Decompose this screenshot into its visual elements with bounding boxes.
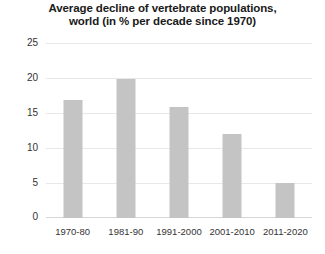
y-axis-tick-10: 10: [0, 143, 38, 153]
bar-2011-2020[interactable]: [276, 183, 295, 218]
bars-layer: [46, 43, 312, 218]
chart-title-line-1: Average decline of vertebrate population…: [0, 2, 325, 15]
bar-slot-1991-2000: [152, 43, 205, 218]
x-axis-tick-1970-80: 1970-80: [46, 226, 99, 237]
y-axis-tick-5: 5: [0, 178, 38, 188]
x-axis-tick-2011-2020: 2011-2020: [259, 226, 312, 237]
bar-1981-90[interactable]: [116, 79, 135, 218]
chart-title: Average decline of vertebrate population…: [0, 2, 325, 28]
bar-slot-1970-80: [46, 43, 99, 218]
x-axis-tick-1991-2000: 1991-2000: [152, 226, 205, 237]
y-axis-tick-0: 0: [0, 212, 38, 222]
bar-slot-2011-2020: [259, 43, 312, 218]
bar-2001-2010[interactable]: [223, 134, 242, 218]
y-axis-tick-15: 15: [0, 108, 38, 118]
bar-1970-80[interactable]: [63, 100, 82, 218]
x-axis-tick-2001-2010: 2001-2010: [206, 226, 259, 237]
y-axis-tick-20: 20: [0, 73, 38, 83]
bar-slot-2001-2010: [206, 43, 259, 218]
x-axis-tick-1981-90: 1981-90: [99, 226, 152, 237]
bar-slot-1981-90: [99, 43, 152, 218]
bar-1991-2000[interactable]: [169, 107, 188, 218]
chart-title-line-2: world (in % per decade since 1970): [0, 15, 325, 28]
bar-chart: Average decline of vertebrate population…: [0, 0, 325, 254]
y-axis-tick-25: 25: [0, 38, 38, 48]
